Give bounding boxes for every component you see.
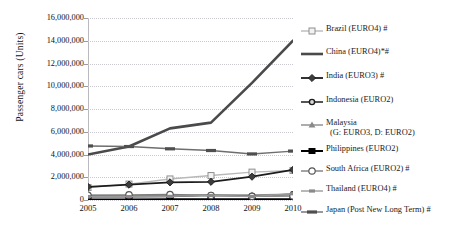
legend-swatch [300,25,324,37]
data-point-marker [88,195,91,198]
legend-label-line2: (G: EURO3, D: EURO2) [330,128,415,138]
legend-swatch [300,165,324,177]
legend-item[interactable]: Indonesia (EURO2) [300,95,393,108]
data-point-marker [88,144,93,147]
y-tick-label: 8,000,000 [0,104,88,113]
legend-item[interactable]: South Africa (EURO2) # [300,164,410,177]
data-point-marker [249,195,255,198]
legend-swatch [300,185,324,197]
series-line [88,41,293,155]
legend-swatch [300,119,324,131]
legend-swatch [300,145,324,157]
y-tick-label: 2,000,000 [0,172,88,181]
data-point-marker [206,149,216,152]
series-2 [88,166,293,190]
legend-item[interactable]: Brazil (EURO4) # [300,24,387,37]
series-0 [88,167,293,190]
y-tick-label: 6,000,000 [0,127,88,136]
series-line [88,170,293,187]
data-point-marker [247,152,257,155]
series-line [88,146,293,154]
y-tick-label: 16,000,000 [0,13,88,22]
legend-swatch [300,72,324,84]
legend-item[interactable]: Philippines (EURO2) [300,144,398,157]
data-point-marker [288,149,293,152]
data-point-marker [308,75,315,82]
legend-label: South Africa (EURO2) # [326,164,410,173]
series-8 [88,144,293,155]
y-tick-label: 10,000,000 [0,81,88,90]
gridline [88,200,293,201]
legend-item[interactable]: Thailand (EURO4) # [300,184,397,197]
legend-label: China (EURO4)*# [326,47,389,56]
x-tick-label: 2006 [109,203,149,213]
data-point-marker [307,210,317,213]
series-1 [88,41,293,155]
x-tick-label: 2007 [150,203,190,213]
data-point-marker [309,168,315,174]
legend-swatch [300,96,324,108]
legend-label: Indonesia (EURO2) [326,95,393,104]
x-tick-label: 2005 [68,203,108,213]
legend-label: India (EURO3) # [326,71,384,80]
legend-label: Brazil (EURO4) # [326,24,387,33]
x-tick-label: 2008 [191,203,231,213]
data-point-marker [126,195,132,198]
legend-label: Japan (Post New Long Term) # [326,205,431,214]
data-point-marker [208,194,214,197]
data-point-marker [124,145,134,148]
legend-item[interactable]: China (EURO4)*# [300,47,389,60]
y-tick-label: 14,000,000 [0,36,88,45]
legend-swatch [300,206,324,218]
legend-swatch [300,48,324,60]
legend-label: Philippines (EURO2) [326,144,398,153]
data-point-marker [309,99,314,104]
x-tick-label: 2009 [232,203,272,213]
data-point-marker [309,148,316,154]
data-point-marker [165,147,175,150]
legend-item[interactable]: Japan (Post New Long Term) # [300,205,431,218]
line-chart: Passenger cars (Units) 02,000,0004,000,0… [0,0,464,225]
legend-item[interactable]: India (EURO3) # [300,71,384,84]
legend-item[interactable]: Malaysia(G: EURO3, D: EURO2) [300,118,415,138]
y-tick-label: 4,000,000 [0,150,88,159]
data-point-marker [309,28,315,34]
data-point-marker [207,178,214,185]
data-point-marker [290,192,293,195]
series-lines [88,18,293,200]
data-point-marker [309,190,315,193]
legend-label: Malaysia [326,118,357,127]
legend-label: Thailand (EURO4) # [326,184,397,193]
y-tick-label: 12,000,000 [0,59,88,68]
data-point-marker [167,195,173,198]
